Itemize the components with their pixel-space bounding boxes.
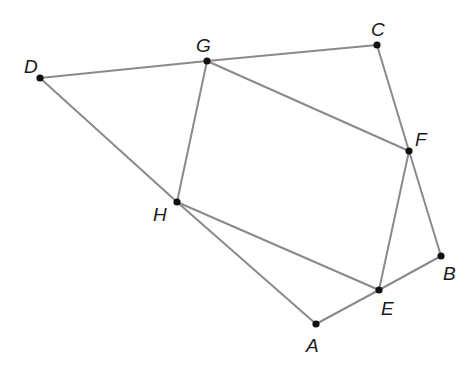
label-f: F <box>415 129 428 150</box>
segment-ah <box>177 202 316 324</box>
segment-gf <box>207 61 409 151</box>
labels: ABCDEFGH <box>24 19 456 356</box>
geometry-diagram: ABCDEFGH <box>0 0 474 367</box>
point-f <box>405 147 412 154</box>
label-d: D <box>24 56 38 77</box>
segment-fb <box>409 151 441 256</box>
label-b: B <box>443 263 456 284</box>
segment-dg <box>40 61 207 78</box>
segment-fe <box>379 151 409 290</box>
point-c <box>373 41 380 48</box>
label-h: H <box>153 204 167 225</box>
points <box>36 41 444 327</box>
point-g <box>203 57 210 64</box>
segment-eh <box>177 202 379 290</box>
segment-hd <box>40 78 177 202</box>
label-a: A <box>305 335 319 356</box>
segment-be <box>379 256 441 290</box>
label-g: G <box>196 35 211 56</box>
point-b <box>437 252 444 259</box>
label-e: E <box>381 298 394 319</box>
segment-ea <box>316 290 379 324</box>
point-e <box>375 286 382 293</box>
point-a <box>312 320 319 327</box>
segment-gc <box>207 45 377 61</box>
point-h <box>173 198 180 205</box>
segments <box>40 45 441 324</box>
segment-hg <box>177 61 207 202</box>
segment-cf <box>377 45 409 151</box>
label-c: C <box>371 19 385 40</box>
